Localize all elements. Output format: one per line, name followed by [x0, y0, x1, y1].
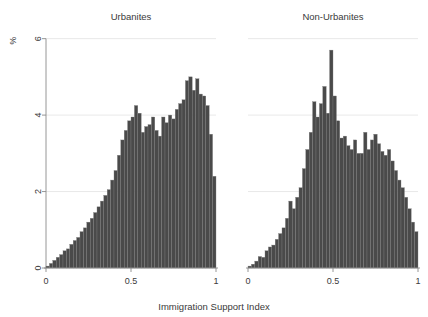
histogram-bar: [360, 153, 363, 268]
histogram-bar: [411, 222, 414, 268]
histogram-figure: % 0246 00.51Urbanites00.51Non-Urbanites …: [0, 0, 428, 317]
histogram-bar: [185, 81, 188, 268]
histogram-bar: [296, 197, 299, 268]
histogram-bar: [340, 138, 343, 268]
histogram-bar: [279, 234, 282, 268]
histogram-bar: [302, 169, 305, 268]
histogram-bar: [56, 257, 59, 268]
x-tick-label-0: 0: [245, 276, 250, 286]
histogram-bar: [182, 100, 185, 268]
panel-title: Non-Urbanites: [302, 11, 363, 22]
y-axis-tick-labels: 0246: [33, 36, 43, 270]
histogram-bar: [404, 197, 407, 268]
histogram-bar: [262, 257, 265, 268]
histogram-bar: [165, 123, 168, 268]
histogram-bar: [104, 195, 107, 268]
panel-non-urbanites: 00.51Non-Urbanites: [245, 11, 420, 286]
histogram-bar: [145, 127, 148, 268]
histogram-bar: [326, 113, 329, 268]
histogram-bar: [381, 151, 384, 268]
histogram-bar: [401, 188, 404, 268]
histogram-bar: [319, 104, 322, 268]
histogram-bar: [172, 119, 175, 268]
histogram-bar: [272, 245, 275, 268]
histogram-bar: [323, 86, 326, 268]
x-tick-label-0.5: 0.5: [327, 276, 340, 286]
histogram-bar: [70, 244, 73, 268]
histogram-bar: [199, 94, 202, 268]
histogram-bar: [292, 209, 295, 268]
histogram-bar: [158, 136, 161, 268]
histogram-bar: [275, 239, 278, 268]
histogram-bar: [63, 251, 66, 268]
histogram-bar: [370, 140, 373, 268]
histogram-bar: [77, 237, 80, 268]
histogram-bar: [151, 117, 154, 268]
histogram-bar: [268, 247, 271, 268]
histogram-bar: [100, 201, 103, 268]
histogram-bar: [53, 260, 56, 268]
histogram-bar: [391, 161, 394, 268]
histogram-bar: [90, 218, 93, 268]
histogram-bar: [347, 146, 350, 268]
histogram-bar: [285, 218, 288, 268]
histogram-bar: [206, 106, 209, 268]
histogram-bar: [107, 190, 110, 268]
histogram-bar: [387, 150, 390, 269]
histogram-bar: [408, 209, 411, 268]
histogram-bar: [394, 171, 397, 268]
histogram-bar: [282, 228, 285, 268]
histogram-bar: [306, 150, 309, 269]
x-axis-title: Immigration Support Index: [158, 301, 270, 312]
histogram-bar: [131, 117, 134, 268]
histogram-bar: [350, 150, 353, 269]
histogram-bar: [265, 251, 268, 268]
histogram-bar: [364, 132, 367, 268]
histogram-bar: [87, 222, 90, 268]
histogram-bar: [60, 255, 63, 268]
histogram-bar: [138, 113, 141, 268]
histogram-bar: [316, 117, 319, 268]
y-axis-label: %: [8, 36, 18, 44]
histogram-bar: [202, 96, 205, 268]
histogram-bar: [367, 150, 370, 269]
histogram-bar: [168, 115, 171, 268]
histogram-bar: [209, 134, 212, 268]
histogram-bar: [309, 132, 312, 268]
chart-canvas: % 0246 00.51Urbanites00.51Non-Urbanites …: [0, 0, 428, 317]
histogram-bar: [189, 77, 192, 268]
histogram-bar: [192, 90, 195, 268]
panel-urbanites: 00.51Urbanites: [43, 11, 218, 286]
bars-group: [248, 50, 418, 268]
histogram-bar: [343, 136, 346, 268]
histogram-bar: [353, 140, 356, 268]
histogram-bar: [289, 201, 292, 268]
histogram-bar: [162, 117, 165, 268]
histogram-bar: [117, 155, 120, 268]
x-tick-label-1: 1: [213, 276, 218, 286]
y-tick-label-2: 2: [33, 189, 43, 194]
histogram-bar: [374, 134, 377, 268]
histogram-bar: [377, 144, 380, 268]
histogram-bar: [111, 180, 114, 268]
histogram-bar: [333, 96, 336, 268]
histogram-bar: [357, 153, 360, 268]
histogram-bar: [398, 180, 401, 268]
histogram-bar: [330, 50, 333, 268]
histogram-bar: [66, 249, 69, 268]
histogram-bar: [114, 171, 117, 268]
histogram-bar: [124, 130, 127, 268]
histogram-bar: [94, 213, 97, 268]
panel-title: Urbanites: [111, 11, 152, 22]
histogram-bar: [251, 264, 254, 268]
histogram-bar: [213, 176, 216, 268]
x-tick-label-1: 1: [415, 276, 420, 286]
histogram-bar: [148, 125, 151, 268]
histogram-bar: [313, 102, 316, 268]
histogram-bar: [128, 121, 131, 268]
histogram-bar: [83, 228, 86, 268]
histogram-bar: [299, 188, 302, 268]
histogram-bar: [258, 257, 261, 268]
histogram-bar: [196, 79, 199, 268]
y-tick-label-0: 0: [33, 265, 43, 270]
